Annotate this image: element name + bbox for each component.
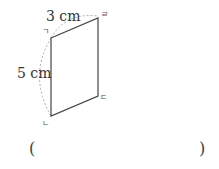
vertex-label-digeut: ㄷ <box>100 94 107 102</box>
vertex-label-giyeok: ㄱ <box>42 28 49 36</box>
label-5cm: 5 cm <box>17 66 51 80</box>
vertex-label-nieun: ㄴ <box>42 120 49 128</box>
answer-close-paren: ) <box>199 141 205 157</box>
answer-open-paren: ( <box>29 141 35 157</box>
label-3cm: 3 cm <box>46 9 80 23</box>
parallelogram <box>51 18 98 116</box>
vertex-label-rieul: ㄹ <box>101 11 108 19</box>
